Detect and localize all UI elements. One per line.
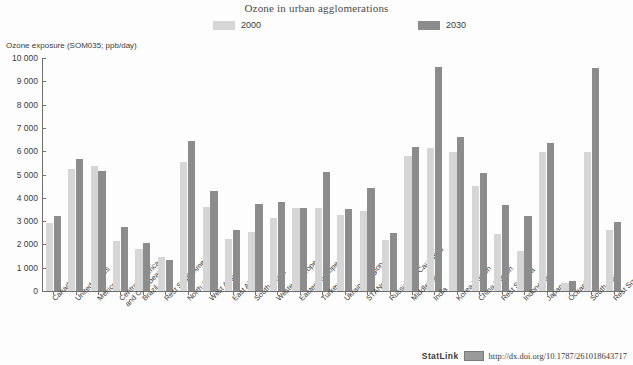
bar-2000-15: [382, 240, 389, 291]
bar-2000-14: [360, 211, 367, 291]
y-axis-tick-mark: [42, 198, 46, 199]
bar-2000-8: [225, 239, 232, 291]
bar-2030-8: [233, 230, 240, 291]
bar-2000-24: [584, 152, 591, 291]
bar-2030-20: [502, 205, 509, 291]
bar-2030-14: [367, 188, 374, 291]
y-axis-tick-label: 0: [2, 286, 38, 296]
y-axis-tick-label: 8 000: [2, 100, 38, 110]
y-axis-tick-mark: [42, 175, 46, 176]
y-axis-tick-label: 4 000: [2, 193, 38, 203]
bar-2000-3: [113, 241, 120, 291]
bar-2000-18: [449, 152, 456, 291]
statlink-url[interactable]: http://dx.doi.org/10.1787/261018643717: [489, 351, 627, 361]
bar-2030-12: [323, 172, 330, 291]
y-axis-tick-mark: [42, 81, 46, 82]
bar-2000-19: [472, 186, 479, 291]
y-axis-tick-label: 3 000: [2, 216, 38, 226]
bar-2030-4: [143, 243, 150, 291]
bar-2000-21: [517, 251, 524, 291]
y-axis-tick-label: 10 000: [2, 53, 38, 63]
bar-2000-11: [292, 208, 299, 291]
bar-2030-21: [524, 216, 531, 291]
y-axis-tick-mark: [42, 128, 46, 129]
bar-2030-11: [300, 208, 307, 291]
y-axis-tick-label: 7 000: [2, 123, 38, 133]
bar-2030-15: [390, 233, 397, 291]
statlink-label: StatLink: [422, 351, 459, 361]
bar-2000-13: [337, 215, 344, 291]
bar-2000-25: [606, 230, 613, 291]
bar-2000-0: [46, 223, 53, 291]
bar-2030-19: [480, 173, 487, 291]
bar-2000-7: [203, 207, 210, 291]
statlink-footer: StatLink http://dx.doi.org/10.1787/26101…: [422, 351, 627, 361]
bar-2000-9: [248, 232, 255, 291]
bar-2030-22: [547, 143, 554, 291]
bar-2000-2: [91, 166, 98, 291]
y-axis-tick-label: 6 000: [2, 146, 38, 156]
bar-2030-7: [210, 191, 217, 291]
bar-2000-22: [539, 152, 546, 291]
bar-2000-4: [135, 249, 142, 291]
bar-2000-10: [270, 218, 277, 291]
bar-2030-2: [98, 171, 105, 291]
y-axis-tick-mark: [42, 151, 46, 152]
y-axis-tick-mark: [42, 58, 46, 59]
bar-2000-12: [315, 208, 322, 291]
bar-2030-0: [54, 216, 61, 291]
y-axis-tick-label: 1 000: [2, 263, 38, 273]
bar-2030-18: [457, 137, 464, 291]
bar-2030-10: [278, 202, 285, 291]
bar-2030-1: [76, 159, 83, 291]
bar-2000-16: [404, 156, 411, 291]
bar-2030-17: [435, 67, 442, 291]
y-axis-tick-mark: [42, 105, 46, 106]
bar-2000-1: [68, 169, 75, 291]
y-axis-tick-mark: [42, 221, 46, 222]
statlink-icon: [464, 351, 484, 361]
bar-2000-17: [427, 148, 434, 291]
bar-2030-6: [188, 141, 195, 291]
bar-2030-24: [592, 68, 599, 291]
y-axis-tick-label: 2 000: [2, 239, 38, 249]
bar-2000-23: [561, 283, 568, 291]
plot-area: 01 0002 0003 0004 0005 0006 0007 0008 00…: [0, 0, 633, 365]
bar-2000-6: [180, 162, 187, 291]
bar-2030-3: [121, 227, 128, 291]
y-axis-tick-label: 9 000: [2, 76, 38, 86]
bar-2000-20: [494, 234, 501, 291]
bar-2030-16: [412, 147, 419, 291]
y-axis-tick-label: 5 000: [2, 170, 38, 180]
bar-2030-9: [255, 204, 262, 291]
bar-2000-5: [158, 257, 165, 291]
bar-2030-25: [614, 222, 621, 291]
bar-2030-13: [345, 209, 352, 291]
